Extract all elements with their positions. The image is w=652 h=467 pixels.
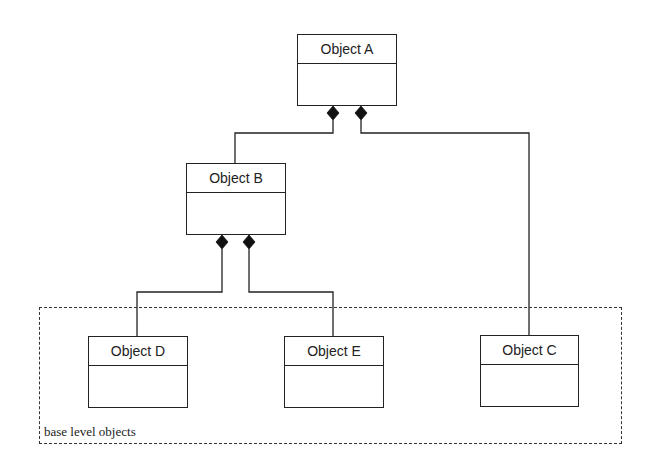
composition-diamond-icon [216,235,228,249]
object-d-box: Object D [88,336,188,408]
connector-a-b [235,120,333,163]
composition-diamond-icon [355,106,367,120]
composition-diamond-icon [327,106,339,120]
object-e-name: Object E [285,337,383,366]
base-level-group-label: base level objects [44,424,136,440]
object-d-name: Object D [89,337,187,366]
object-c-box: Object C [480,335,579,407]
object-a-box: Object A [297,34,397,106]
object-e-box: Object E [284,336,384,408]
diagram-canvas: base level objects Object A Object B Obj… [0,0,652,467]
composition-diamond-icon [243,235,255,249]
connector-a-c [361,120,529,335]
object-c-name: Object C [481,336,578,365]
object-a-name: Object A [298,35,396,64]
object-b-name: Object B [187,164,285,193]
object-b-box: Object B [186,163,286,235]
